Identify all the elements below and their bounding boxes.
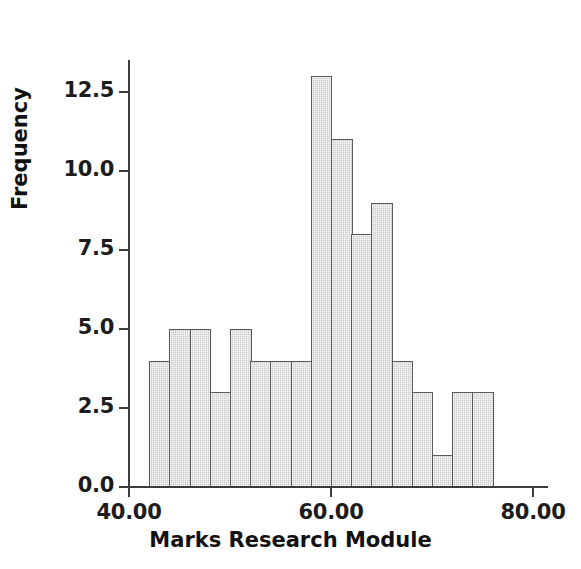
histogram-bar (452, 392, 474, 487)
histogram-bar (210, 392, 232, 487)
y-tick-label: 7.5 (56, 236, 114, 260)
histogram-bar (311, 76, 333, 487)
histogram-bar (351, 234, 373, 487)
y-tick-label: 12.5 (56, 78, 114, 102)
histogram-chart: 0.02.55.07.510.012.5 40.0060.0080.00 Fre… (0, 0, 581, 569)
histogram-bar (149, 361, 171, 487)
y-tick-mark (119, 91, 128, 93)
x-axis-line (128, 486, 548, 488)
x-axis-title: Marks Research Module (0, 528, 581, 552)
y-tick-label: 2.5 (56, 394, 114, 418)
histogram-bar (432, 455, 454, 487)
histogram-bar (331, 139, 353, 487)
histogram-bar (472, 392, 494, 487)
y-tick-mark (119, 249, 128, 251)
histogram-bar (230, 329, 252, 487)
x-tick-mark (532, 488, 534, 497)
y-tick-mark (119, 170, 128, 172)
x-tick-label: 40.00 (97, 500, 162, 524)
y-tick-mark (119, 407, 128, 409)
y-tick-label: 0.0 (56, 473, 114, 497)
histogram-bar (250, 361, 272, 487)
x-tick-label: 80.00 (501, 500, 566, 524)
y-axis-title: Frequency (8, 87, 32, 210)
histogram-bar (291, 361, 313, 487)
histogram-bar (270, 361, 292, 487)
x-tick-mark (330, 488, 332, 497)
x-tick-mark (128, 488, 130, 497)
y-axis-line (128, 60, 130, 488)
histogram-bar (392, 361, 414, 487)
y-tick-mark (119, 486, 128, 488)
histogram-bar (190, 329, 212, 487)
histogram-bar (169, 329, 191, 487)
y-tick-label: 10.0 (56, 157, 114, 181)
y-tick-mark (119, 328, 128, 330)
histogram-bar (412, 392, 434, 487)
x-tick-label: 60.00 (299, 500, 364, 524)
y-tick-label: 5.0 (56, 315, 114, 339)
histogram-bar (371, 203, 393, 487)
